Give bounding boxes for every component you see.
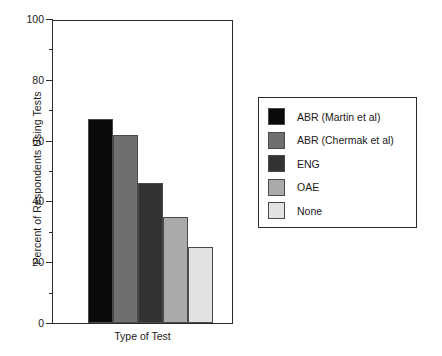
bar [88, 119, 113, 323]
y-tick-label: 20 [32, 256, 44, 268]
bar [113, 135, 138, 323]
y-tick-mark [46, 201, 53, 202]
y-tick-mark [46, 19, 53, 20]
legend-swatch-icon [268, 132, 285, 149]
legend-swatch-icon [268, 155, 285, 172]
x-axis-label: Type of Test [52, 330, 233, 342]
bar [138, 183, 163, 323]
y-tick-label: 0 [38, 317, 44, 329]
y-tick-mark [46, 262, 53, 263]
legend-swatch-icon [268, 179, 285, 196]
bar [163, 217, 188, 323]
bar-series [53, 21, 232, 323]
legend-label: ABR (Martin et al) [297, 111, 380, 123]
plot-area: 020406080100 [52, 20, 233, 324]
legend-item: OAE [268, 176, 416, 199]
y-tick-label: 100 [26, 13, 44, 25]
y-tick-mark [46, 323, 53, 324]
legend-label: ENG [297, 158, 320, 170]
legend: ABR (Martin et al)ABR (Chermak et al)ENG… [258, 97, 417, 228]
bar [188, 247, 213, 323]
legend-label: ABR (Chermak et al) [297, 134, 394, 146]
y-tick-mark [46, 141, 53, 142]
legend-item: ABR (Martin et al) [268, 105, 416, 128]
legend-swatch-icon [268, 108, 285, 125]
legend-label: None [297, 205, 322, 217]
bar-chart-figure: Percent of Respondents Using Tests 02040… [0, 0, 442, 356]
legend-swatch-icon [268, 202, 285, 219]
y-tick-label: 60 [32, 135, 44, 147]
legend-label: OAE [297, 181, 319, 193]
y-tick-mark [46, 80, 53, 81]
legend-item: None [268, 199, 416, 222]
legend-item: ABR (Chermak et al) [268, 129, 416, 152]
y-tick-label: 40 [32, 195, 44, 207]
legend-item: ENG [268, 152, 416, 175]
y-tick-label: 80 [32, 74, 44, 86]
